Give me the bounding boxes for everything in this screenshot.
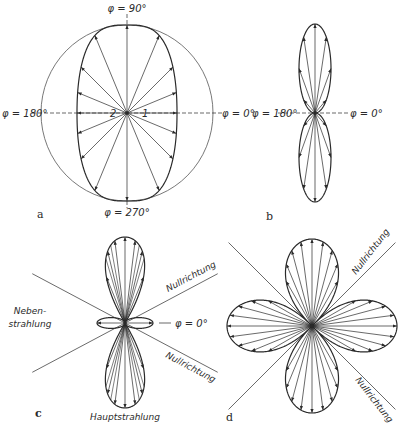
panel-a-label-top: φ = 90° <box>107 3 146 14</box>
arrowhead-icon <box>251 348 255 351</box>
panel-c-null-dir-label-lower: Nullrichtung <box>164 350 217 385</box>
radius-vector <box>81 67 127 113</box>
panel-c-phi-label: φ = 0° <box>175 318 208 329</box>
center-point <box>125 111 129 115</box>
arrowhead-icon <box>141 364 144 368</box>
arrowhead-icon <box>330 397 333 401</box>
radius-vector <box>127 67 173 113</box>
arrowhead-icon <box>141 277 144 281</box>
radius-vector <box>125 245 139 323</box>
radius-vector <box>125 259 144 323</box>
antenna-radiation-patterns-figure: φ = 90° φ = 270° φ = 180° φ = 0° 2 1 a φ… <box>0 0 404 430</box>
radius-vector <box>111 245 125 323</box>
arrowhead-icon <box>238 343 242 346</box>
arrowhead-icon <box>291 397 294 401</box>
arrowhead-icon <box>78 130 82 133</box>
panel-a-label-bottom: φ = 270° <box>104 207 149 218</box>
arrowhead-icon <box>106 277 109 281</box>
arrowhead-icon <box>328 69 331 73</box>
arrowhead-icon <box>368 348 372 351</box>
arrowhead-icon <box>335 384 338 388</box>
panel-a-label-left: φ = 180° <box>2 108 47 119</box>
panel-b-caption: b <box>266 210 273 223</box>
arrowhead-icon <box>299 69 302 73</box>
panel-c-side-lobe-label-line2: strahlung <box>9 319 52 329</box>
panel-c-side-lobe-label-line1: Neben- <box>14 306 46 316</box>
panel-d-caption: d <box>226 411 233 424</box>
arrowhead-icon <box>328 153 331 157</box>
arrowhead-icon <box>156 35 159 39</box>
arrowhead-icon <box>238 306 242 309</box>
arrowhead-icon <box>286 264 289 268</box>
panel-b-label-left: φ = 180° <box>252 108 297 119</box>
arrowhead-icon <box>95 186 98 190</box>
center-point <box>313 111 317 115</box>
arrowhead-icon <box>286 384 289 388</box>
arrowhead-icon <box>106 364 109 368</box>
arrowhead-icon <box>78 93 82 96</box>
radius-vector <box>125 323 139 400</box>
panel-a-caption: a <box>37 208 44 221</box>
panel-a-inner-label-2: 2 <box>110 108 116 119</box>
panel-c-main-lobe-label: Hauptstrahlung <box>90 412 160 422</box>
radius-vector <box>106 323 125 387</box>
radius-vector <box>111 323 125 400</box>
panel-d-null-dir-label-lower: Nullrichtung <box>353 375 395 425</box>
panel-c-caption: c <box>35 407 42 420</box>
radius-vector <box>106 259 125 323</box>
arrowhead-icon <box>291 251 294 255</box>
arrowhead-icon <box>172 93 176 96</box>
radius-vector <box>125 323 144 387</box>
arrowhead-icon <box>381 343 385 346</box>
center-point <box>310 324 314 328</box>
center-point <box>123 321 127 325</box>
radius-vector <box>81 113 127 159</box>
arrowhead-icon <box>299 153 302 157</box>
radius-vector <box>127 113 173 159</box>
panel-b-label-right: φ = 0° <box>350 108 383 119</box>
panel-c-null-dir-label-upper: Nullrichtung <box>164 259 217 294</box>
arrowhead-icon <box>330 251 333 255</box>
panel-d-null-dir-label-upper: Nullrichtung <box>350 227 392 277</box>
arrowhead-icon <box>335 264 338 268</box>
arrowhead-icon <box>95 35 98 39</box>
arrowhead-icon <box>251 301 255 304</box>
arrowhead-icon <box>172 130 176 133</box>
panel-a-cardioid-pattern <box>32 14 222 208</box>
arrowhead-icon <box>381 306 385 309</box>
panel-a-label-right: φ = 0° <box>222 108 255 119</box>
panel-a-inner-label-1: 1 <box>142 108 148 119</box>
arrowhead-icon <box>156 186 159 190</box>
arrowhead-icon <box>368 301 372 304</box>
